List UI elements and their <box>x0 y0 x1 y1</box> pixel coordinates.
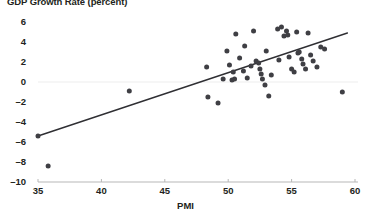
data-point <box>264 49 269 54</box>
data-point <box>127 89 132 94</box>
data-point <box>204 65 209 70</box>
data-point <box>303 67 308 72</box>
data-point <box>297 50 302 55</box>
data-point <box>276 58 281 63</box>
data-point <box>227 63 232 68</box>
data-point <box>260 77 265 82</box>
trendline-segment <box>38 33 347 136</box>
y-axis-tick-label: 2 <box>0 56 26 67</box>
x-axis-title: PMI <box>0 200 371 211</box>
x-axis-tick-label: 50 <box>214 185 242 196</box>
data-point <box>299 57 304 62</box>
y-axis-tick-label: –4 <box>0 116 26 127</box>
data-point <box>266 94 271 99</box>
y-axis-tick-label: 4 <box>0 36 26 47</box>
data-point <box>249 64 254 69</box>
axis-lines-group <box>38 179 358 182</box>
x-axis-tick-label: 40 <box>87 185 115 196</box>
y-axis-tick-label: –6 <box>0 136 26 147</box>
data-point <box>231 70 236 75</box>
data-point <box>232 77 237 82</box>
data-point <box>285 33 290 38</box>
data-point <box>279 25 284 30</box>
data-point <box>233 32 238 37</box>
data-point <box>216 101 221 106</box>
y-axis-tick-label: 6 <box>0 16 26 27</box>
y-axis-tick-label: –2 <box>0 96 26 107</box>
data-point <box>256 61 261 66</box>
scatter-plot-canvas <box>0 0 371 219</box>
data-point <box>294 30 299 35</box>
data-point <box>262 83 267 88</box>
data-point <box>205 95 210 100</box>
data-point <box>46 164 51 169</box>
data-point <box>245 76 250 81</box>
data-point <box>340 90 345 95</box>
data-point <box>311 59 316 64</box>
data-point <box>237 56 242 61</box>
data-point <box>292 70 297 75</box>
data-points-group <box>36 25 345 169</box>
x-axis-tick-label: 60 <box>341 185 369 196</box>
x-axis-tick-label: 45 <box>151 185 179 196</box>
data-point <box>257 67 262 72</box>
data-point <box>287 55 292 60</box>
trendline <box>38 33 347 136</box>
data-point <box>224 49 229 54</box>
data-point <box>241 69 246 74</box>
x-axis-tick-label: 35 <box>24 185 52 196</box>
x-axis-tick-label: 55 <box>278 185 306 196</box>
data-point <box>314 65 319 70</box>
data-point <box>301 62 306 67</box>
data-point <box>308 53 313 58</box>
data-point <box>306 31 311 36</box>
chart-figure: GDP Growth Rate (percent) 6420–2–4–6–8–1… <box>0 0 371 219</box>
y-axis-tick-label: 0 <box>0 76 26 87</box>
data-point <box>251 29 256 34</box>
data-point <box>36 134 41 139</box>
data-point <box>322 47 327 52</box>
y-axis-tick-label: –10 <box>0 176 26 187</box>
data-point <box>269 73 274 78</box>
data-point <box>242 44 247 49</box>
data-point <box>259 72 264 77</box>
data-point <box>221 77 226 82</box>
y-axis-tick-label: –8 <box>0 156 26 167</box>
